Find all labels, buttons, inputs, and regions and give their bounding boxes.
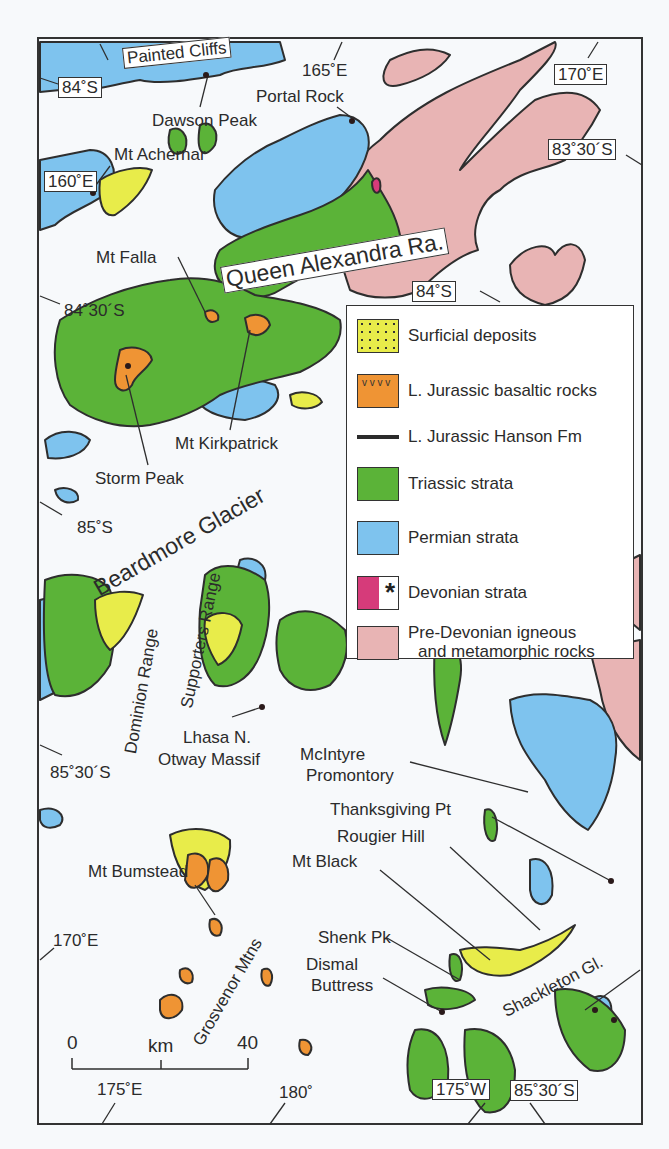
map-legend: Surficial deposits v v v v L. Jurassic b… [346, 305, 634, 659]
basalt-swatch: v v v v [357, 374, 399, 408]
legend-item-permian: Permian strata [357, 521, 519, 555]
label-buttress: Buttress [311, 977, 373, 994]
devonian-unit [372, 178, 380, 193]
lat-label-85-30s-bottom: 85˚30´S [510, 1080, 578, 1101]
lon-label-170e-top: 170˚E [554, 64, 607, 85]
label-thanksgiving-pt: Thanksgiving Pt [330, 801, 451, 818]
scale-bar [72, 1058, 248, 1069]
lat-label-84s-mid: 84˚S [412, 281, 456, 302]
label-mt-achernar: Mt Achernar [114, 146, 206, 163]
legend-item-surficial: Surficial deposits [357, 319, 537, 353]
scale-max: 40 [237, 1033, 258, 1052]
label-mcintyre: McIntyre [300, 746, 365, 763]
label-mt-black: Mt Black [292, 853, 357, 870]
label-portal-rock: Portal Rock [256, 88, 344, 105]
lat-label-84-30s: 84˚30´S [64, 302, 124, 319]
label-otway-massif: Otway Massif [158, 751, 260, 768]
lat-label-83-30s: 83˚30´S [548, 139, 616, 160]
lon-label-170e-left: 170˚E [53, 932, 98, 949]
label-promontory: Promontory [306, 767, 394, 784]
lat-label-85-30s-left: 85˚30´S [50, 764, 110, 781]
label-lhasa-n: Lhasa N. [183, 729, 251, 746]
label-mt-falla: Mt Falla [96, 249, 156, 266]
label-rougier-hill: Rougier Hill [337, 828, 425, 845]
label-mt-bumstead: Mt Bumstead [88, 863, 188, 880]
lon-label-175e: 175˚E [97, 1081, 142, 1098]
legend-item-basalt: v v v v L. Jurassic basaltic rocks [357, 374, 597, 408]
surficial-swatch [357, 319, 399, 353]
lat-label-84s-top: 84˚S [58, 77, 102, 98]
lat-label-85s: 85˚S [77, 519, 113, 536]
legend-item-devonian: * Devonian strata [357, 576, 527, 610]
devonian-swatch: * [357, 576, 399, 610]
pre-devonian-swatch [357, 626, 399, 660]
legend-item-triassic: Triassic strata [357, 467, 513, 501]
scale-unit: km [148, 1036, 173, 1055]
scale-zero: 0 [67, 1033, 78, 1052]
asterisk-icon: * [385, 579, 395, 605]
label-storm-peak: Storm Peak [95, 470, 184, 487]
lon-label-165e: 165˚E [302, 62, 347, 79]
label-dismal: Dismal [306, 956, 358, 973]
hanson-line-swatch [357, 435, 399, 439]
lon-label-175w: 175˚W [432, 1079, 490, 1100]
label-dawson-peak: Dawson Peak [152, 112, 257, 129]
label-shenk-pk: Shenk Pk [318, 929, 391, 946]
legend-item-hanson: L. Jurassic Hanson Fm [357, 428, 582, 447]
triassic-swatch [357, 467, 399, 501]
label-mt-kirkpatrick: Mt Kirkpatrick [175, 435, 278, 452]
surficial-unit [100, 168, 152, 215]
legend-item-pre-devonian: Pre-Devonian igneous and metamorphic roc… [357, 624, 595, 661]
lon-label-180: 180˚ [279, 1084, 313, 1101]
lon-label-160e: 160˚E [44, 171, 97, 192]
permian-swatch [357, 521, 399, 555]
